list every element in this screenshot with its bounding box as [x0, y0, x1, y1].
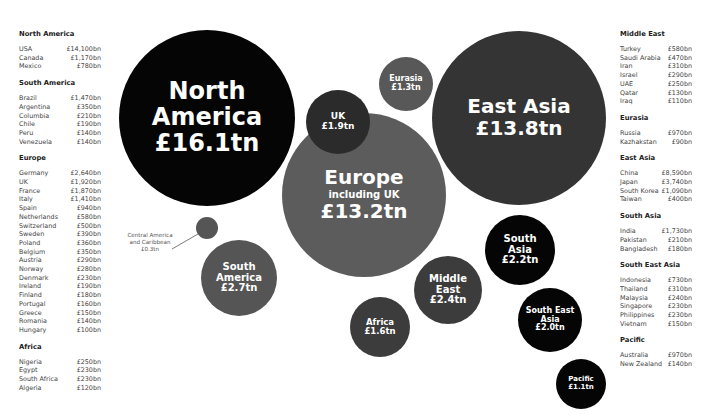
bubble-value: £13.2tn — [320, 201, 407, 223]
country-name: Saudi Arabia — [620, 54, 661, 63]
country-name: Japan — [620, 178, 638, 187]
region-middle-east: Middle EastTurkey£580bnSaudi Arabia£470b… — [620, 30, 692, 106]
country-row: Venezuela£140bn — [19, 138, 101, 147]
country-row: Taiwan£400bn — [620, 195, 692, 204]
region-heading: Africa — [19, 343, 101, 351]
country-row: Indonesia£730bn — [620, 276, 692, 285]
region-heading: North America — [19, 30, 101, 38]
country-name: Austria — [19, 256, 42, 265]
country-row: Thailand£310bn — [620, 285, 692, 294]
country-row: UAE£250bn — [620, 80, 692, 89]
country-value: £580bn — [77, 213, 101, 222]
country-value: £290bn — [668, 71, 692, 80]
country-value: £970bn — [668, 351, 692, 360]
country-name: Vietnam — [620, 320, 647, 329]
country-name: Indonesia — [620, 276, 651, 285]
country-name: Russia — [620, 129, 641, 138]
country-row: Bangladesh£180bn — [620, 245, 692, 254]
country-value: £250bn — [668, 80, 692, 89]
country-row: Ireland£190bn — [19, 282, 101, 291]
country-row: Philippines£230bn — [620, 311, 692, 320]
country-row: Sweden£390bn — [19, 230, 101, 239]
country-name: Australia — [620, 351, 648, 360]
bubble-value: £2.2tn — [502, 255, 539, 266]
country-row: Columbia£210bn — [19, 112, 101, 121]
country-row: Saudi Arabia£470bn — [620, 54, 692, 63]
country-row: Nigeria£250bn — [19, 358, 101, 367]
country-value: £8,590bn — [662, 169, 692, 178]
country-value: £1,920bn — [71, 178, 101, 187]
country-value: £290bn — [77, 256, 101, 265]
country-name: Italy — [19, 195, 33, 204]
country-row: Romania£140bn — [19, 317, 101, 326]
country-name: Taiwan — [620, 195, 642, 204]
country-value: £500bn — [77, 222, 101, 231]
country-name: Sweden — [19, 230, 44, 239]
country-row: Peru£140bn — [19, 129, 101, 138]
country-value: £470bn — [668, 54, 692, 63]
country-row: Mexico£780bn — [19, 62, 101, 71]
bubble-value: £1.6tn — [364, 327, 395, 336]
country-value: £970bn — [668, 129, 692, 138]
country-value: £400bn — [668, 195, 692, 204]
country-name: Bangladesh — [620, 245, 657, 254]
bubble-value: £2.7tn — [221, 283, 258, 294]
country-name: UK — [19, 178, 28, 187]
country-row: Japan£3,740bn — [620, 178, 692, 187]
country-value: £230bn — [668, 311, 692, 320]
region-heading: Eurasia — [620, 114, 692, 122]
country-name: Chile — [19, 120, 35, 129]
country-name: Egypt — [19, 366, 37, 375]
country-row: Italy£1,410bn — [19, 195, 101, 204]
country-row: Germany£2,640bn — [19, 169, 101, 178]
country-name: Greece — [19, 309, 42, 318]
country-name: New Zealand — [620, 360, 662, 369]
country-name: Kazhakstan — [620, 138, 657, 147]
country-row: South Africa£230bn — [19, 375, 101, 384]
bubble-value: £1.1tn — [568, 384, 594, 392]
country-name: Romania — [19, 317, 47, 326]
country-name: Ireland — [19, 282, 41, 291]
country-name: Algeria — [19, 384, 41, 393]
region-south-asia: South AsiaIndia£1,730bnPakistan£210bnBan… — [620, 212, 692, 253]
country-row: Israel£290bn — [620, 71, 692, 80]
country-value: £280bn — [77, 265, 101, 274]
country-value: £250bn — [77, 358, 101, 367]
country-value: £390bn — [77, 230, 101, 239]
bubble-value: £13.8tn — [475, 118, 562, 140]
country-value: £90bn — [672, 138, 692, 147]
country-value: £150bn — [77, 309, 101, 318]
country-row: Singapore£230bn — [620, 302, 692, 311]
country-name: Mexico — [19, 62, 41, 71]
country-value: £1,170bn — [71, 54, 101, 63]
bubble-east-asia: East Asia£13.8tn — [432, 31, 606, 205]
region-heading: South East Asia — [620, 261, 692, 269]
country-name: Portugal — [19, 300, 45, 309]
bubble-label: South — [503, 234, 536, 245]
country-value: £1,730bn — [662, 227, 692, 236]
country-name: Malaysia — [620, 294, 648, 303]
country-row: Algeria£120bn — [19, 384, 101, 393]
country-value: £1,410bn — [71, 195, 101, 204]
country-value: £180bn — [77, 291, 101, 300]
country-name: Iraq — [620, 97, 633, 106]
country-name: Singapore — [620, 302, 652, 311]
country-name: South Africa — [19, 375, 58, 384]
region-heading: South America — [19, 79, 101, 87]
country-row: Malaysia£240bn — [620, 294, 692, 303]
region-heading: Pacific — [620, 336, 692, 344]
country-row: France£1,870bn — [19, 187, 101, 196]
bubble-north-america: NorthAmerica£16.1tn — [119, 30, 295, 206]
country-row: Poland£360bn — [19, 239, 101, 248]
country-name: India — [620, 227, 636, 236]
country-value: £310bn — [668, 62, 692, 71]
right-legend-column: Middle EastTurkey£580bnSaudi Arabia£470b… — [620, 30, 692, 377]
bubble-middle-east: MiddleEast£2.4tn — [414, 256, 482, 324]
bubble-label: America — [152, 105, 262, 131]
country-value: £350bn — [77, 103, 101, 112]
country-value: £580bn — [668, 45, 692, 54]
country-row: China£8,590bn — [620, 169, 692, 178]
country-row: Norway£280bn — [19, 265, 101, 274]
country-name: Poland — [19, 239, 40, 248]
country-name: Hungary — [19, 326, 46, 335]
